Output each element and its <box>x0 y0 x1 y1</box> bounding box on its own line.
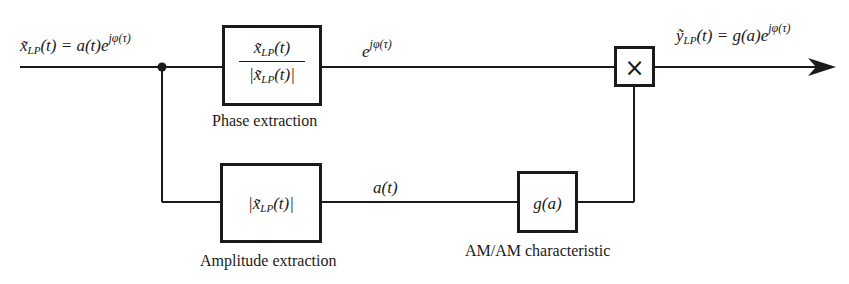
input-signal-label: x̃LP(t) = a(t)ejφ(τ) <box>20 32 131 56</box>
multiplier-block: × <box>614 46 655 87</box>
phase-extraction-block: x̃LP(t) |x̃LP(t)| <box>222 25 322 106</box>
phase-extraction-caption: Phase extraction <box>212 113 317 129</box>
amplitude-output-label: a(t) <box>373 179 398 196</box>
phase-fraction: x̃LP(t) |x̃LP(t)| <box>225 38 319 85</box>
phase-output-label: ejφ(τ) <box>362 38 392 60</box>
amplitude-extraction-caption: Amplitude extraction <box>200 253 336 269</box>
amplitude-extraction-block: |x̃LP(t)| <box>220 163 322 243</box>
amam-formula: g(a) <box>520 194 575 214</box>
multiply-icon: × <box>617 54 652 82</box>
output-signal-label: ỹLP(t) = g(a)ejφ(τ) <box>676 22 791 46</box>
amam-characteristic-caption: AM/AM characteristic <box>465 243 610 259</box>
amplitude-formula: |x̃LP(t)| <box>223 194 319 214</box>
amam-characteristic-block: g(a) <box>517 171 578 233</box>
